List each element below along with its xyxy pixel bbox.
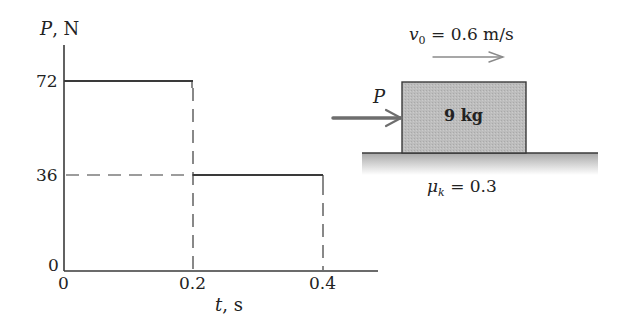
velocity-value: = 0.6 m/s bbox=[426, 24, 514, 44]
y-axis-label: P, N bbox=[40, 20, 79, 38]
x-axis-unit: , s bbox=[222, 294, 243, 315]
friction-value: = 0.3 bbox=[445, 176, 497, 196]
y-tick-72: 72 bbox=[36, 73, 58, 90]
ground-shading bbox=[362, 153, 598, 175]
graph-axes bbox=[64, 45, 378, 271]
velocity-label: v0 = 0.6 m/s bbox=[409, 26, 514, 46]
y-axis-unit: , N bbox=[52, 18, 79, 39]
velocity-arrow-icon bbox=[433, 52, 503, 62]
x-tick-0: 0 bbox=[58, 275, 69, 292]
friction-label: μk = 0.3 bbox=[427, 178, 497, 198]
velocity-sub: 0 bbox=[419, 34, 426, 47]
force-arrow-icon bbox=[333, 110, 401, 126]
x-tick-04: 0.4 bbox=[309, 275, 336, 292]
x-axis-label: t, s bbox=[215, 296, 243, 314]
friction-var: μ bbox=[427, 176, 438, 196]
force-label: P bbox=[373, 88, 385, 106]
mass-label: 9 kg bbox=[444, 108, 483, 124]
friction-sub: k bbox=[438, 186, 445, 199]
y-tick-0: 0 bbox=[48, 257, 59, 274]
y-axis-var: P bbox=[40, 18, 52, 39]
velocity-var: v bbox=[409, 24, 419, 44]
dashed-guides bbox=[66, 88, 323, 270]
y-tick-36: 36 bbox=[36, 167, 58, 184]
x-tick-02: 0.2 bbox=[179, 275, 206, 292]
